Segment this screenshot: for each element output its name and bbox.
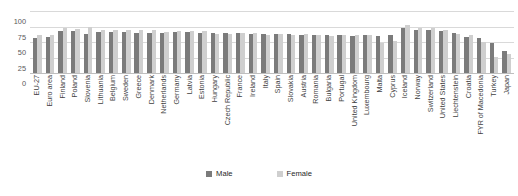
x-axis-tick-label: Latvia	[186, 75, 193, 94]
x-axis-tick-label: Czech Republic	[224, 75, 231, 125]
bar-female	[177, 31, 181, 73]
bar-group	[323, 11, 336, 73]
bar-group	[336, 11, 349, 73]
bar-group	[234, 11, 247, 73]
x-axis-label-cell: Lithuania	[94, 75, 107, 157]
x-axis-tick-label: Euro area	[46, 75, 53, 107]
x-axis-tick-label: Iceland	[402, 75, 409, 98]
x-axis-label-cell: Poland	[69, 75, 82, 157]
x-axis-tick-label: Japan	[503, 75, 510, 95]
x-axis-label-cell: Finland	[56, 75, 69, 157]
bar-group	[424, 11, 437, 73]
bar-female	[50, 35, 54, 73]
x-axis-tick-label: Romania	[313, 75, 320, 104]
bar-group	[120, 11, 133, 73]
bar-female	[380, 43, 384, 73]
bar-group	[133, 11, 146, 73]
x-axis-label-cell: Latvia	[183, 75, 196, 157]
legend-swatch-icon	[277, 171, 283, 177]
x-axis-label-cell: Slovenia	[82, 75, 95, 157]
bar-female	[367, 35, 371, 73]
x-axis-label-cell: Germany	[171, 75, 184, 157]
bar-female	[37, 35, 41, 73]
x-axis-tick-label: EU-27	[34, 75, 41, 95]
x-axis-label-cell: Liechtenstein	[450, 75, 463, 157]
axis-baseline	[30, 73, 514, 74]
x-axis-label-cell: Estonia	[196, 75, 209, 157]
x-axis-tick-label: Sweden	[123, 75, 130, 101]
legend-label: Male	[216, 170, 232, 178]
bar-group	[488, 11, 501, 73]
bar-female	[240, 33, 244, 73]
bar-group	[82, 11, 95, 73]
x-axis-tick-label: France	[237, 75, 244, 97]
bar-group	[475, 11, 488, 73]
bar-chart: 0255075100 EU-27Euro areaFinlandPolandSl…	[0, 0, 518, 196]
bar-group	[69, 11, 82, 73]
bar-female	[113, 30, 117, 73]
bar-female	[355, 35, 359, 73]
x-axis-tick-label: Estonia	[199, 75, 206, 99]
x-axis-tick-label: Finland	[59, 75, 66, 99]
y-axis-tick-label: 100	[0, 18, 26, 25]
bar-female	[88, 27, 92, 73]
x-axis-tick-label: Hungary	[211, 75, 218, 102]
x-axis-label-cell: Hungary	[209, 75, 222, 157]
bar-female	[75, 29, 79, 73]
legend-label: Female	[287, 170, 312, 178]
x-axis-label-cell: Czech Republic	[221, 75, 234, 157]
x-axis-tick-label: Lithuania	[97, 75, 104, 104]
x-axis-label-cell: United Kingdom	[348, 75, 361, 157]
x-axis-label-cell: Romania	[310, 75, 323, 157]
bar-female	[228, 34, 232, 73]
x-axis-tick-label: Denmark	[148, 75, 155, 104]
bar-group	[437, 11, 450, 73]
bar-group	[386, 11, 399, 73]
bar-group	[247, 11, 260, 73]
x-axis-tick-label: Italy	[262, 75, 269, 88]
bar-female	[443, 30, 447, 73]
legend-item[interactable]: Female	[277, 170, 312, 178]
x-axis-label-cell: Slovakia	[285, 75, 298, 157]
bar-group	[209, 11, 222, 73]
x-axis-label-cell: EU-27	[31, 75, 44, 157]
bar-group	[221, 11, 234, 73]
x-axis-label-cell: Bulgaria	[323, 75, 336, 157]
x-axis-tick-label: Croatia	[465, 75, 472, 98]
x-axis-label-cell: Austria	[297, 75, 310, 157]
x-axis-tick-label: Cyprus	[389, 75, 396, 98]
bar-group	[348, 11, 361, 73]
bar-group	[361, 11, 374, 73]
bar-female	[431, 28, 435, 73]
x-axis-label-cell: Ireland	[247, 75, 260, 157]
bar-group	[183, 11, 196, 73]
bar-female	[481, 42, 485, 73]
bar-female	[266, 35, 270, 73]
bar-group	[94, 11, 107, 73]
x-axis-tick-label: Switzerland	[427, 75, 434, 112]
bar-female	[342, 35, 346, 73]
bar-female	[190, 31, 194, 73]
bar-female	[316, 35, 320, 73]
bar-female	[202, 31, 206, 73]
x-axis-tick-label: Slovenia	[84, 75, 91, 103]
x-axis-label-cell: Denmark	[145, 75, 158, 157]
x-axis-label-cell: FYR of Macedonia	[475, 75, 488, 157]
bar-group	[107, 11, 120, 73]
bar-group	[297, 11, 310, 73]
bar-group	[462, 11, 475, 73]
bar-female	[494, 57, 498, 73]
y-axis-tick-label: 25	[0, 65, 26, 72]
x-axis-label-cell: Cyprus	[386, 75, 399, 157]
legend-item[interactable]: Male	[206, 170, 232, 178]
x-axis-tick-label: Belgium	[110, 75, 117, 101]
x-axis-tick-label: United States	[440, 75, 447, 118]
bar-female	[139, 30, 143, 73]
bar-female	[393, 41, 397, 73]
x-axis-tick-label: Greece	[135, 75, 142, 99]
x-axis-label-cell: Malta	[374, 75, 387, 157]
bar-group	[500, 11, 513, 73]
bar-female	[215, 34, 219, 73]
bar-female	[469, 35, 473, 73]
bar-group	[399, 11, 412, 73]
